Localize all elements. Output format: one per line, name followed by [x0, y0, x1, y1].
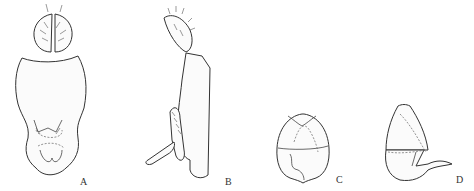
figure-panel-d: D [370, 80, 474, 191]
panel-a-drawing [0, 0, 160, 191]
figure-panel-b: B [140, 0, 260, 191]
panel-c-drawing [260, 80, 360, 191]
panel-label-b: B [225, 176, 232, 187]
panel-label-c: C [336, 174, 343, 185]
panel-label-d: D [456, 174, 463, 185]
panel-b-drawing [140, 0, 260, 191]
panel-label-a: A [80, 176, 87, 187]
figure-panel-c: C [260, 80, 360, 191]
figure-panel-a: A [0, 0, 160, 191]
